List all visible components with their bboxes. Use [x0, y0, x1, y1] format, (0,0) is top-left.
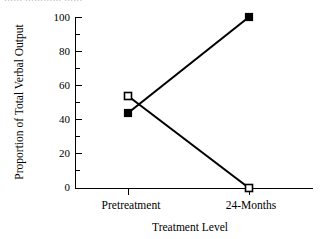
x-ticks [129, 189, 250, 196]
series-line-open [128, 96, 249, 188]
y-tick-label: 60 [59, 79, 71, 91]
line-chart: Proportion of Total Verbal Output 100 80… [0, 0, 324, 239]
y-tick-labels: 100 80 60 40 20 0 [54, 11, 71, 193]
x-tick-label-24months: 24-Months [226, 199, 277, 211]
data-point-filled-24months [246, 14, 253, 21]
y-tick-label: 20 [59, 147, 71, 159]
x-axis-title: Treatment Level [152, 221, 228, 233]
data-point-open-24months [246, 185, 253, 192]
data-point-open-pretreatment [125, 93, 132, 100]
axis-lines [76, 17, 314, 189]
chart-screenshot: …… ………… …… Proportion of Total Verbal Ou… [0, 0, 324, 239]
y-axis-title: Proportion of Total Verbal Output [13, 24, 26, 180]
series-line-filled [128, 17, 249, 113]
y-tick-label: 0 [65, 181, 71, 193]
y-tick-label: 80 [59, 45, 71, 57]
data-point-filled-pretreatment [125, 110, 132, 117]
y-tick-label: 100 [54, 11, 71, 23]
x-tick-label-pretreatment: Pretreatment [102, 199, 162, 211]
y-tick-label: 40 [59, 113, 71, 125]
